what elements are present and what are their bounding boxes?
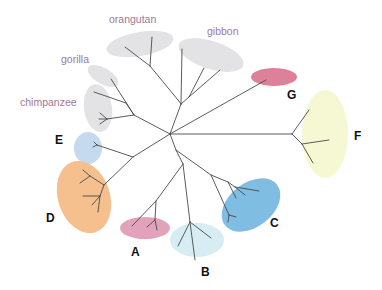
label-clade-f: F bbox=[354, 129, 361, 143]
label-orangutan: orangutan bbox=[109, 13, 156, 25]
label-clade-e: E bbox=[55, 133, 63, 147]
clade-d-highlight bbox=[48, 154, 120, 240]
label-clade-g: G bbox=[287, 88, 296, 102]
clade-highlights bbox=[48, 26, 348, 257]
gibbon-highlight bbox=[174, 31, 247, 79]
clade-f-highlight bbox=[302, 90, 348, 178]
label-clade-a: A bbox=[131, 245, 140, 259]
clade-e-highlight bbox=[74, 132, 102, 164]
clade-b-highlight bbox=[170, 223, 224, 257]
chimpanzee-highlight bbox=[81, 82, 115, 133]
label-gibbon: gibbon bbox=[207, 25, 239, 37]
clade-c-highlight bbox=[211, 167, 290, 242]
label-clade-b: B bbox=[201, 265, 210, 279]
label-chimpanzee: chimpanzee bbox=[20, 96, 77, 108]
label-gorilla: gorilla bbox=[61, 53, 89, 65]
phylogenetic-tree: orangutan gibbon gorilla chimpanzee A B … bbox=[0, 0, 382, 290]
orangutan-highlight bbox=[104, 26, 175, 61]
clade-g-highlight bbox=[251, 68, 297, 86]
label-clade-c: C bbox=[270, 216, 279, 230]
clade-a-highlight bbox=[120, 217, 170, 239]
label-clade-d: D bbox=[46, 211, 55, 225]
